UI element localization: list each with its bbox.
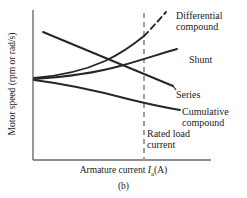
x-axis-title-prefix: Armature current bbox=[80, 165, 148, 175]
y-axis-title-wrap: Motor speed (rpm or rad/s) bbox=[2, 0, 22, 168]
y-axis-title: Motor speed (rpm or rad/s) bbox=[7, 33, 17, 136]
curve-series bbox=[43, 32, 173, 86]
x-axis-title-suffix: (A) bbox=[154, 165, 167, 175]
curve-differential-compound-dashed bbox=[144, 12, 166, 36]
figure-caption: (b) bbox=[0, 181, 247, 192]
annotation-rated-load-current: Rated load current bbox=[147, 128, 190, 150]
curve-label-series: Series bbox=[176, 89, 200, 100]
curve-label-shunt: Shunt bbox=[189, 54, 212, 65]
curve-cumulative-compound bbox=[34, 80, 180, 110]
curve-differential-compound-solid bbox=[34, 36, 144, 78]
figure-panel: Motor speed (rpm or rad/s) Differential … bbox=[0, 0, 247, 198]
curve-label-cumulative-compound: Cumulative compound bbox=[182, 106, 229, 128]
curve-label-differential-compound: Differential compound bbox=[176, 10, 222, 32]
curve-shunt bbox=[34, 49, 177, 79]
x-axis-title: Armature current Ia(A) bbox=[0, 165, 247, 179]
